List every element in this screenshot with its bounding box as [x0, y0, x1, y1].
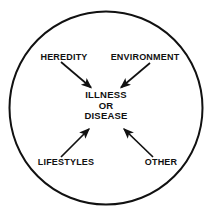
- center-node-line-3: DISEASE: [84, 111, 127, 122]
- center-node-line-1: ILLNESS: [84, 90, 127, 101]
- center-node-illness-or-disease: ILLNESS OR DISEASE: [84, 90, 127, 122]
- arrow-lifestyles: [61, 129, 89, 157]
- arrow-environment: [121, 63, 150, 88]
- factor-label-heredity: HEREDITY: [40, 52, 87, 62]
- arrow-other: [124, 129, 153, 157]
- arrow-heredity: [61, 62, 91, 88]
- factor-label-lifestyles: LIFESTYLES: [38, 157, 95, 167]
- factor-label-other: OTHER: [145, 157, 178, 167]
- factor-label-environment: ENVIRONMENT: [111, 52, 180, 62]
- diagram-canvas: HEREDITY ENVIRONMENT LIFESTYLES OTHER IL…: [0, 0, 213, 216]
